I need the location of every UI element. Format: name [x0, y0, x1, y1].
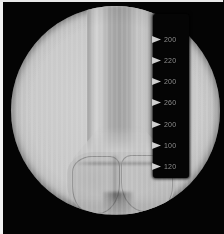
- soft-tissue-shadow: [51, 202, 191, 215]
- radiograph-canvas: 200220200260200100120: [3, 2, 224, 234]
- scale-tick-icon: [152, 99, 161, 106]
- scale-tick-label: 200: [164, 78, 176, 85]
- scale-tick-row: 220: [153, 55, 189, 66]
- scale-tick-label: 260: [164, 99, 176, 106]
- scale-tick-label: 200: [164, 36, 176, 43]
- scale-tick-icon: [152, 57, 161, 64]
- measurement-scale-overlay: 200220200260200100120: [153, 14, 189, 178]
- scale-tick-label: 200: [164, 121, 176, 128]
- scale-tick-row: 120: [153, 161, 189, 172]
- scale-tick-label: 220: [164, 57, 176, 64]
- scale-tick-row: 200: [153, 119, 189, 130]
- scale-tick-icon: [152, 78, 161, 85]
- scale-tick-row: 260: [153, 97, 189, 108]
- scale-tick-icon: [152, 142, 161, 149]
- screenshot-frame: 200220200260200100120: [0, 0, 224, 234]
- scale-tick-icon: [152, 36, 161, 43]
- scale-tick-label: 100: [164, 142, 176, 149]
- scale-tick-label: 120: [164, 163, 176, 170]
- scale-tick-row: 200: [153, 34, 189, 45]
- scale-tick-row: 100: [153, 140, 189, 151]
- scale-tick-icon: [152, 163, 161, 170]
- scale-tick-row: 200: [153, 76, 189, 87]
- scale-tick-icon: [152, 121, 161, 128]
